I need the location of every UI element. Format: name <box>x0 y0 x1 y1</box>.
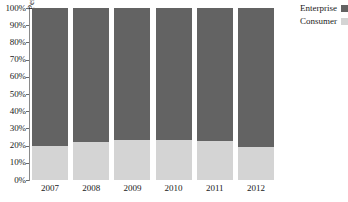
y-tick-mark-60 <box>26 77 29 78</box>
bar-group-2011[interactable] <box>197 8 233 180</box>
x-axis-tick-labels: 200720082009201020112012 <box>32 182 274 198</box>
bar-segment-enterprise-2008[interactable] <box>73 8 109 142</box>
y-tick-mark-30 <box>26 128 29 129</box>
y-tick-mark-10 <box>26 163 29 164</box>
y-tick-mark-70 <box>26 60 29 61</box>
x-tick-label-2011: 2011 <box>197 182 233 194</box>
bar-segment-consumer-2012[interactable] <box>238 147 274 180</box>
bar-group-2007[interactable] <box>32 8 68 180</box>
y-tick-mark-90 <box>26 25 29 26</box>
y-tick-label-0: 0% <box>0 176 26 185</box>
y-tick-label-90: 90% <box>0 21 26 30</box>
chart-legend: EnterpriseConsumer <box>286 3 348 29</box>
y-tick-mark-40 <box>26 111 29 112</box>
x-tick-label-2010: 2010 <box>156 182 192 194</box>
plot-area <box>32 8 274 180</box>
y-tick-label-100: 100% <box>0 4 26 13</box>
y-tick-label-60: 60% <box>0 72 26 81</box>
bar-segment-consumer-2011[interactable] <box>197 141 233 180</box>
stacked-bar-chart: 100%90%80%70%60%50%40%30%20%10%0% Percen… <box>0 0 348 202</box>
y-axis-tick-labels: 100%90%80%70%60%50%40%30%20%10%0% <box>0 0 26 202</box>
y-tick-label-80: 80% <box>0 38 26 47</box>
y-tick-label-70: 70% <box>0 55 26 64</box>
bar-segment-enterprise-2007[interactable] <box>32 8 68 146</box>
y-tick-label-20: 20% <box>0 141 26 150</box>
bar-group-2012[interactable] <box>238 8 274 180</box>
bar-segment-consumer-2008[interactable] <box>73 142 109 180</box>
y-tick-mark-100 <box>26 8 29 9</box>
y-tick-label-10: 10% <box>0 158 26 167</box>
x-tick-label-2012: 2012 <box>238 182 274 194</box>
x-tick-label-2009: 2009 <box>114 182 150 194</box>
x-tick-label-2008: 2008 <box>73 182 109 194</box>
legend-label-enterprise: Enterprise <box>300 3 337 14</box>
bar-group-2010[interactable] <box>156 8 192 180</box>
bar-segment-consumer-2007[interactable] <box>32 146 68 180</box>
bar-segment-enterprise-2011[interactable] <box>197 8 233 141</box>
bar-segment-enterprise-2010[interactable] <box>156 8 192 140</box>
y-tick-mark-80 <box>26 42 29 43</box>
bar-group-2008[interactable] <box>73 8 109 180</box>
y-tick-label-50: 50% <box>0 90 26 99</box>
y-tick-mark-0 <box>26 180 29 181</box>
y-axis-line <box>29 7 30 181</box>
y-tick-mark-20 <box>26 146 29 147</box>
bar-segment-consumer-2010[interactable] <box>156 140 192 180</box>
legend-swatch-icon-consumer <box>341 18 348 25</box>
y-tick-label-30: 30% <box>0 124 26 133</box>
legend-swatch-icon-enterprise <box>341 5 348 12</box>
bar-segment-enterprise-2009[interactable] <box>114 8 150 140</box>
bar-group-2009[interactable] <box>114 8 150 180</box>
bar-segment-enterprise-2012[interactable] <box>238 8 274 147</box>
legend-item-enterprise[interactable]: Enterprise <box>286 3 348 14</box>
y-tick-label-40: 40% <box>0 107 26 116</box>
bar-segment-consumer-2009[interactable] <box>114 140 150 180</box>
x-tick-label-2007: 2007 <box>32 182 68 194</box>
legend-item-consumer[interactable]: Consumer <box>286 16 348 27</box>
legend-label-consumer: Consumer <box>300 16 337 27</box>
y-tick-mark-50 <box>26 94 29 95</box>
